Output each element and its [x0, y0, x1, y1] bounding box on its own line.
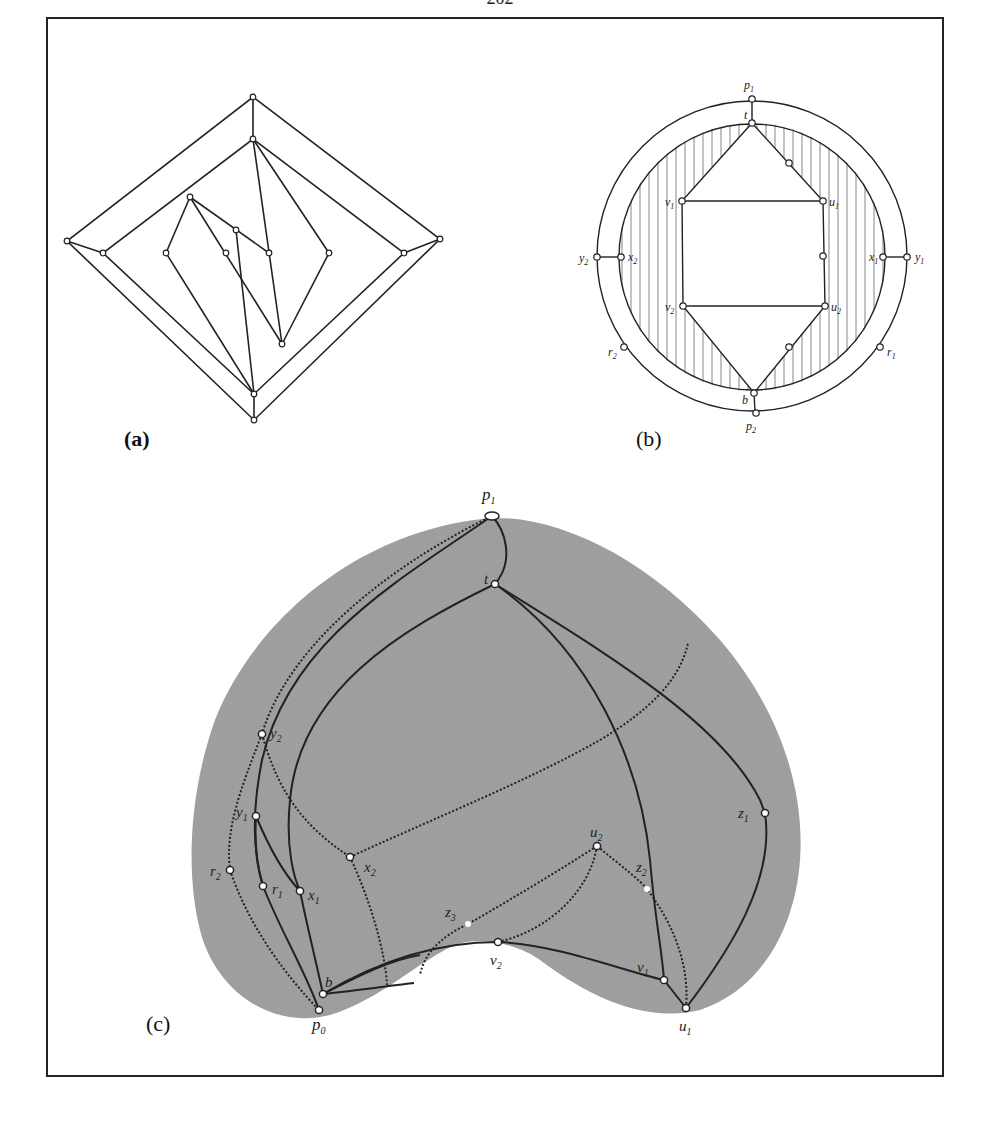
- panel-b-graph: [597, 101, 907, 412]
- panel-a-label: (a): [124, 426, 150, 451]
- panel-c-label: (c): [146, 1011, 170, 1036]
- panel-b-label: (b): [636, 426, 662, 451]
- label-c-p1: p1: [481, 485, 496, 506]
- label-b-y1: y1: [914, 250, 924, 266]
- panel-a-graph: [67, 97, 440, 420]
- label-b-p1: p1: [743, 78, 754, 94]
- label-b-r2: r2: [608, 345, 617, 361]
- label-b-p2: p2: [745, 419, 756, 435]
- label-b-b: b: [742, 393, 748, 407]
- figure-canvas: (a) p1 t v1 u1 v2 u2 x2 x: [0, 0, 993, 1133]
- label-c-p0: p0: [311, 1015, 326, 1036]
- label-b-t: t: [744, 108, 748, 122]
- label-c-v2: v2: [490, 952, 502, 971]
- label-c-u1: u1: [679, 1018, 692, 1037]
- label-c-b: b: [325, 974, 333, 990]
- label-b-r1: r1: [887, 345, 896, 361]
- label-b-y2: y2: [578, 251, 588, 267]
